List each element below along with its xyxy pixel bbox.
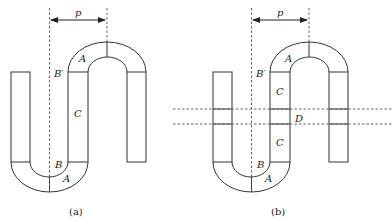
label-b: B [256, 159, 264, 170]
label-c-upper: C [276, 86, 284, 97]
label-p: p [75, 7, 82, 18]
figure-b: p A B′ C D C B A (b) [173, 7, 392, 217]
caption-a: (a) [69, 206, 83, 217]
label-c: C [74, 108, 82, 119]
serpentine-shape-b [213, 42, 348, 192]
label-b-prime: B′ [255, 68, 266, 79]
label-p: p [277, 7, 284, 18]
label-d: D [294, 113, 303, 124]
label-a-top: A [78, 53, 86, 64]
label-a-bottom: A [62, 173, 70, 184]
label-c-lower: C [276, 137, 284, 148]
figure-a: p A B′ C B A (a) [11, 7, 146, 217]
caption-b: (b) [271, 206, 285, 217]
label-a-bottom: A [264, 173, 272, 184]
label-b-prime: B′ [53, 68, 64, 79]
label-b: B [54, 159, 62, 170]
diagram-canvas: p A B′ C B A (a) p A B′ [0, 0, 392, 221]
label-a-top: A [284, 53, 292, 64]
